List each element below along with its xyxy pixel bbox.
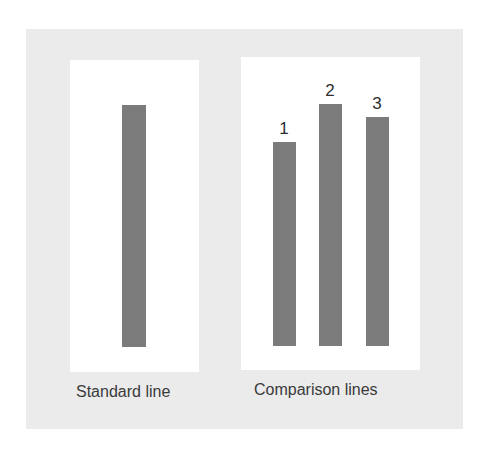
comparison-line-label-3: 3 bbox=[365, 95, 389, 112]
standard-line-caption: Standard line bbox=[76, 383, 170, 401]
standard-line-bar bbox=[122, 105, 146, 347]
comparison-line-bar-3 bbox=[366, 117, 389, 346]
comparison-line-bar-2 bbox=[319, 104, 342, 346]
comparison-lines-caption: Comparison lines bbox=[254, 381, 378, 399]
comparison-line-label-1: 1 bbox=[272, 120, 296, 137]
comparison-line-bar-1 bbox=[273, 142, 296, 346]
comparison-line-label-2: 2 bbox=[318, 82, 342, 99]
